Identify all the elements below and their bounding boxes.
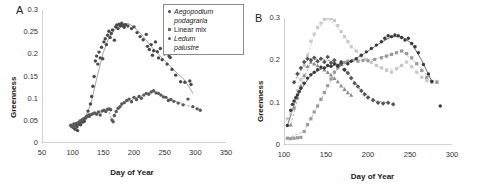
panel-b-ytick: 0.2 [254,55,280,64]
legend-marker-dot-icon [166,7,174,16]
legend-marker-square-icon [166,25,174,34]
panel-b-xtick: 150 [313,150,339,159]
panel-a-ytick: 0.3 [12,5,38,14]
panel-b-plot-area [284,18,452,145]
panel-a-ytick: 0.2 [12,49,38,58]
panel-b-ytick: 0.3 [254,13,280,22]
panel-a-ytick: 0 [12,138,38,147]
panel-a-legend-item: Linear mix [166,25,240,34]
panel-b-xtick: 250 [397,150,423,159]
panel-b: B Greenness Day of Year 00.10.20.3100150… [244,0,489,189]
panel-b-xtick: 100 [271,150,297,159]
legend-marker-dot-icon [166,34,174,43]
panel-b-svg [284,18,452,145]
panel-a-xtick: 250 [152,148,178,157]
panel-b-x-axis-label: Day of Year [250,172,489,181]
panel-a-x-axis-label: Day of Year [10,168,254,177]
panel-a-xtick: 300 [182,148,208,157]
panel-b-xtick: 300 [439,150,465,159]
panel-b-xtick: 200 [355,150,381,159]
panel-a-legend-item: Aegopodium podagraria [166,7,240,25]
panel-a-legend-label: Aegopodium podagraria [174,7,213,25]
panel-a-ytick: 0.25 [12,27,38,36]
panel-a-xtick: 200 [121,148,147,157]
panel-a-xtick: 100 [60,148,86,157]
panel-a-ytick: 0.1 [12,94,38,103]
panel-a-ytick: 0.05 [12,116,38,125]
panel-a-legend: Aegopodium podagrariaLinear mixLedum pal… [163,4,244,55]
panel-a: A Greenness Day of Year 00.050.10.150.20… [0,0,244,189]
panel-b-ytick: 0.1 [254,98,280,107]
panel-a-xtick: 50 [29,148,55,157]
panel-a-legend-label: Linear mix [174,25,206,34]
panel-b-ytick: 0 [254,140,280,149]
figure-greenness-phenology: A Greenness Day of Year 00.050.10.150.20… [0,0,489,189]
panel-a-legend-label: Ledum palustre [174,34,199,52]
panel-a-xtick: 150 [90,148,116,157]
panel-a-xtick: 350 [213,148,239,157]
panel-a-legend-item: Ledum palustre [166,34,240,52]
panel-a-ytick: 0.15 [12,72,38,81]
